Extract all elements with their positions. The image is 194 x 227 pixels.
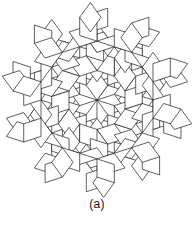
figure-caption: (a) — [0, 197, 194, 211]
rhombic-tiling-diagram — [0, 0, 194, 200]
figure-container: (a) — [0, 0, 194, 227]
